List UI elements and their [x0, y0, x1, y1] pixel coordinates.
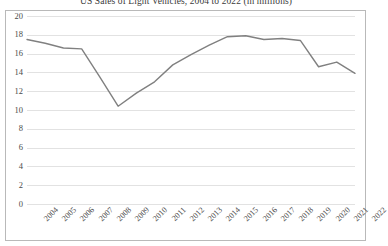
x-tick-label: 2013 — [207, 206, 224, 223]
line-series-layer — [27, 16, 355, 204]
y-tick-label: 14 — [3, 68, 23, 77]
y-tick-label: 2 — [3, 181, 23, 190]
x-tick-label: 2019 — [316, 206, 333, 223]
x-tick-label: 2014 — [225, 206, 242, 223]
x-tick-label: 2018 — [298, 206, 315, 223]
y-tick-label: 0 — [3, 200, 23, 209]
x-tick-label: 2022 — [371, 206, 388, 223]
y-tick-label: 4 — [3, 162, 23, 171]
x-tick-label: 2004 — [43, 206, 60, 223]
x-tick-label: 2010 — [152, 206, 169, 223]
plot-area — [27, 16, 355, 204]
chart-title: US Sales of Light Vehicles, 2004 to 2022… — [0, 0, 372, 6]
gridline — [27, 204, 355, 205]
x-tick-label: 2015 — [243, 206, 260, 223]
y-tick-label: 16 — [3, 49, 23, 58]
x-tick-label: 2017 — [280, 206, 297, 223]
y-tick-label: 18 — [3, 30, 23, 39]
x-tick-label: 2012 — [189, 206, 206, 223]
x-tick-label: 2011 — [170, 206, 187, 223]
y-tick-label: 6 — [3, 143, 23, 152]
x-tick-label: 2016 — [261, 206, 278, 223]
y-tick-label: 20 — [3, 12, 23, 21]
x-tick-label: 2020 — [334, 206, 351, 223]
x-tick-label: 2007 — [97, 206, 114, 223]
x-tick-label: 2005 — [61, 206, 78, 223]
x-tick-label: 2009 — [134, 206, 151, 223]
x-tick-label: 2006 — [79, 206, 96, 223]
y-tick-label: 8 — [3, 124, 23, 133]
y-tick-label: 10 — [3, 106, 23, 115]
x-axis: 2004200520062007200820092010201120122013… — [27, 206, 355, 244]
line-series-us-light-vehicle-sales — [27, 36, 355, 107]
y-tick-label: 12 — [3, 87, 23, 96]
y-axis: 02468101214161820 — [0, 16, 23, 204]
x-tick-label: 2008 — [116, 206, 133, 223]
